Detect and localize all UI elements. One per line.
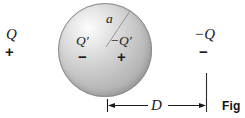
left-charge-symbol: Q	[6, 27, 17, 42]
figure-caption: Fig	[222, 99, 241, 113]
induced-right-symbol: −Q′	[110, 34, 132, 48]
right-charge-symbol: −Q	[194, 27, 215, 42]
figure-canvas: a Q + −Q − Q′ − −Q′ + D Fig	[0, 0, 245, 118]
induced-left-sign: −	[78, 49, 87, 64]
induced-right-sign: +	[117, 49, 126, 64]
induced-left-symbol: Q′	[76, 34, 89, 48]
radius-label-a: a	[106, 12, 113, 26]
dimension-label-D: D	[151, 98, 162, 113]
left-charge-sign: +	[5, 44, 14, 59]
conducting-sphere	[58, 3, 152, 97]
right-charge-sign: −	[199, 44, 208, 59]
